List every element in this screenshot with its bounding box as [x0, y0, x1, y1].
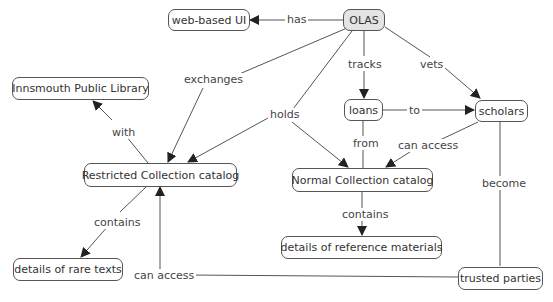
node-details-of-reference-materials[interactable]: details of reference materials: [281, 236, 442, 259]
link-label-with: with: [110, 126, 137, 139]
edge-contains-rare: [81, 226, 108, 257]
link-label-exchanges: exchanges: [182, 73, 245, 86]
edges-layer: [0, 0, 553, 302]
link-label-can-access-scholars: can access: [396, 139, 460, 152]
node-details-of-rare-texts[interactable]: details of rare texts: [13, 258, 123, 281]
link-label-has: has: [285, 13, 308, 26]
edge-with: [93, 101, 112, 120]
link-label-become: become: [480, 177, 528, 190]
node-innsmouth-public-library[interactable]: Innsmouth Public Library: [12, 77, 149, 100]
edge-holds-restricted: [188, 118, 268, 162]
link-label-contains-normal: contains: [340, 208, 391, 221]
node-loans[interactable]: loans: [344, 99, 383, 121]
link-label-tracks: tracks: [346, 58, 384, 71]
link-label-from: from: [351, 137, 381, 150]
edge-can-access-scholars: [386, 152, 410, 167]
link-label-can-access-trusted: can access: [132, 269, 196, 282]
link-label-vets: vets: [418, 58, 445, 71]
edge-holds-normal: [292, 122, 348, 167]
node-restricted-collection-catalog[interactable]: Restricted Collection catalog: [84, 163, 237, 187]
node-normal-collection-catalog[interactable]: Normal Collection catalog: [292, 168, 433, 192]
link-label-holds: holds: [268, 108, 301, 121]
node-web-based-ui[interactable]: web-based UI: [168, 9, 250, 31]
node-olas[interactable]: OLAS: [343, 9, 385, 31]
link-label-to: to: [407, 104, 422, 117]
edge-exchanges: [168, 88, 203, 162]
link-label-contains-restricted: contains: [92, 216, 143, 229]
node-trusted-parties[interactable]: trusted parties: [458, 267, 543, 290]
edge-vets: [445, 68, 480, 98]
node-scholars[interactable]: scholars: [475, 100, 528, 122]
